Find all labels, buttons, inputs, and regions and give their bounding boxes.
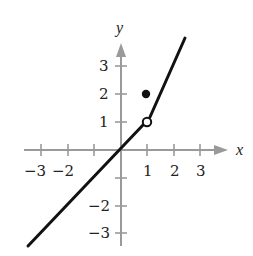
curve-piece-2	[150, 38, 185, 117]
open-point	[143, 118, 151, 126]
curve-piece-1	[28, 125, 143, 246]
y-tick-label: 2	[99, 85, 109, 103]
filled-point	[142, 90, 150, 98]
x-tick-label: −3	[24, 162, 46, 180]
x-axis	[24, 144, 228, 156]
x-tick-label: 1	[143, 162, 153, 180]
x-tick-label: 2	[170, 162, 180, 180]
piecewise-graph: x y −3 −2 1 2 3 3 2 1 −2 −3	[0, 0, 253, 256]
x-tick-label: 3	[196, 162, 206, 180]
y-axis-arrow-icon	[116, 43, 126, 57]
y-tick-label: 3	[99, 57, 109, 75]
y-tick-label: −3	[88, 224, 110, 242]
x-axis-label: x	[235, 141, 243, 158]
y-tick-label: −2	[88, 197, 110, 215]
y-axis-label: y	[114, 19, 124, 37]
y-tick-label: 1	[99, 113, 109, 131]
x-axis-arrow-icon	[214, 145, 228, 155]
x-tick-label: −2	[52, 162, 74, 180]
